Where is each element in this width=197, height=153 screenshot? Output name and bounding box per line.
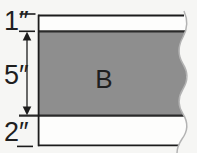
label-middle-thickness: 5″ [4, 60, 29, 90]
bottom-layer [38, 116, 186, 146]
label-bottom-thickness: 2″ [4, 117, 29, 147]
label-top-thickness: 1″ [4, 6, 29, 36]
cross-section-figure: 1″ 5″ 2″ B [0, 0, 197, 153]
cross-section-diagram: 1″ 5″ 2″ B [0, 0, 197, 153]
arrowhead-down-icon [23, 107, 32, 116]
label-region-b: B [95, 64, 112, 94]
top-layer [38, 15, 186, 31]
